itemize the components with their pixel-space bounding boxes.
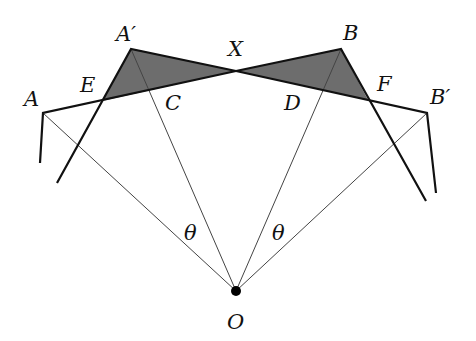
label-theta-left: θ bbox=[184, 221, 197, 245]
label-X: X bbox=[226, 37, 244, 61]
label-F: F bbox=[376, 72, 393, 96]
label-E: E bbox=[79, 73, 95, 97]
label-O: O bbox=[227, 310, 244, 334]
label-C: C bbox=[165, 91, 181, 115]
label-A-prime: A′ bbox=[114, 22, 136, 46]
label-B: B bbox=[342, 21, 358, 45]
label-D: D bbox=[283, 91, 301, 115]
label-A: A bbox=[22, 87, 39, 111]
ray-O-Bprime bbox=[236, 113, 427, 291]
label-theta-right: θ bbox=[272, 221, 285, 245]
label-B-prime: B′ bbox=[429, 85, 450, 109]
rotation-diagram: A A′ X B B′ E F C D O θ θ bbox=[0, 0, 476, 341]
ray-O-B bbox=[236, 49, 341, 291]
center-point-O bbox=[231, 286, 241, 296]
polyline-original bbox=[40, 49, 426, 201]
ray-O-A bbox=[43, 113, 236, 291]
ray-O-Aprime bbox=[131, 49, 236, 291]
